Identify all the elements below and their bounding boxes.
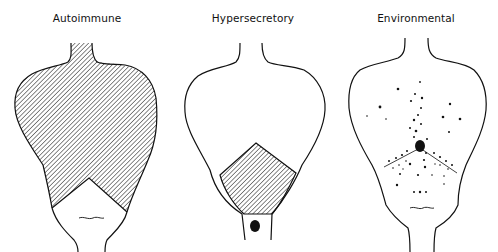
- wavy-line: [410, 207, 434, 208]
- diagram-canvas: [0, 0, 498, 252]
- body-outline-left: [185, 43, 245, 240]
- panel-hypersecretory: [185, 43, 325, 240]
- parathyroid-dot: [250, 220, 260, 232]
- lower-lobe-left: [52, 208, 78, 252]
- body-outline-left: [349, 38, 410, 252]
- wavy-line: [79, 217, 104, 218]
- lower-lobe-right: [105, 212, 127, 252]
- body-outline-right: [428, 38, 486, 252]
- panel-autoimmune: [15, 43, 157, 252]
- stipple-dots: [366, 81, 461, 193]
- hatched-pentagon: [220, 143, 296, 214]
